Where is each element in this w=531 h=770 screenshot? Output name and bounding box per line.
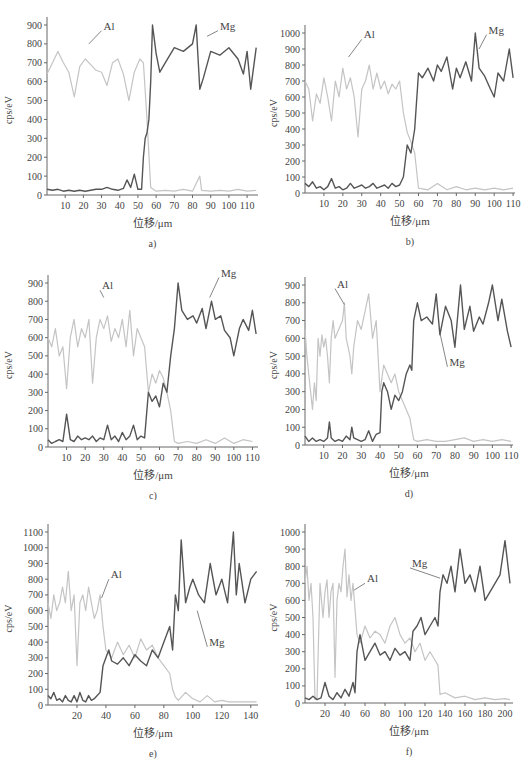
x-tick-label: 70	[169, 200, 179, 211]
y-axis-label: cps/eV	[268, 350, 279, 379]
y-tick-label: 200	[285, 156, 300, 167]
y-tick-label: 600	[285, 92, 300, 103]
x-axis-label: 位移/μm	[133, 726, 173, 739]
annotation-mg: Mg	[220, 20, 236, 32]
x-tick-label: 100	[485, 450, 500, 461]
x-tick-label: 80	[451, 198, 461, 209]
y-tick-label: 600	[285, 333, 300, 344]
y-tick-label: 0	[295, 698, 300, 709]
y-tick-label: 100	[28, 423, 43, 434]
x-tick-label: 50	[133, 200, 143, 211]
y-tick-label: 500	[27, 95, 42, 106]
y-tick-label: 1000	[23, 542, 43, 553]
x-tick-label: 10	[319, 198, 329, 209]
x-tick-label: 60	[155, 452, 165, 463]
chart-a: 0100200300400500600700800900102030405060…	[0, 0, 265, 250]
y-tick-label: 400	[27, 114, 42, 125]
x-tick-label: 100	[487, 198, 502, 209]
y-tick-label: 300	[285, 386, 300, 397]
chart-panel-d: 0100200300400500600700800900102030405060…	[265, 250, 531, 500]
y-tick-label: 200	[28, 668, 43, 679]
x-tick-label: 140	[438, 708, 453, 719]
y-tick-label: 900	[28, 278, 43, 289]
y-tick-label: 100	[285, 680, 300, 691]
y-tick-label: 800	[285, 60, 300, 71]
x-tick-label: 30	[97, 200, 107, 211]
y-tick-label: 200	[285, 663, 300, 674]
x-tick-label: 100	[185, 710, 200, 721]
y-tick-label: 300	[28, 652, 43, 663]
annotation-mg: Mg	[489, 24, 505, 36]
y-tick-label: 700	[27, 57, 42, 68]
x-tick-label: 20	[80, 452, 90, 463]
y-tick-label: 700	[28, 589, 43, 600]
y-tick-label: 700	[285, 315, 300, 326]
x-tick-label: 30	[99, 452, 109, 463]
chart-e: 0100200300400500600700800900100011002040…	[0, 500, 265, 770]
y-tick-label: 100	[27, 171, 42, 182]
x-tick-label: 20	[337, 450, 347, 461]
x-tick-label: 110	[245, 452, 260, 463]
x-tick-label: 160	[458, 708, 473, 719]
chart-panel-f: 0100200300400500600700800900100020406080…	[265, 500, 531, 770]
x-tick-label: 60	[151, 200, 161, 211]
x-tick-label: 80	[192, 452, 202, 463]
y-tick-label: 800	[285, 297, 300, 308]
chart-panel-b: 0100200300400500600700800900100010203040…	[265, 0, 531, 250]
x-axis-label: 位移/μm	[389, 466, 429, 479]
x-axis-label: 位移/μm	[133, 216, 173, 229]
y-tick-label: 0	[38, 442, 43, 453]
annotation-al: Al	[102, 279, 113, 291]
annotation-mg: Mg	[412, 557, 428, 569]
x-tick-label: 90	[210, 452, 220, 463]
y-axis-label: cps/eV	[268, 98, 279, 127]
y-tick-label: 900	[27, 20, 42, 31]
annotation-al: Al	[337, 278, 348, 290]
annotation-al: Al	[104, 20, 115, 32]
annotation-al: Al	[111, 568, 122, 580]
y-tick-label: 100	[285, 422, 300, 433]
series-mg	[305, 33, 513, 190]
x-tick-label: 90	[470, 198, 480, 209]
y-tick-label: 600	[285, 595, 300, 606]
x-tick-label: 20	[78, 200, 88, 211]
annotation-mg: Mg	[209, 636, 225, 648]
y-tick-label: 1000	[280, 28, 300, 39]
panel-caption: f)	[406, 746, 413, 758]
chart-c: 0100200300400500600700800900102030405060…	[0, 250, 265, 500]
y-tick-label: 200	[28, 405, 43, 416]
x-tick-label: 70	[432, 198, 442, 209]
x-tick-label: 10	[319, 450, 329, 461]
series-mg	[305, 541, 510, 700]
y-tick-label: 500	[285, 108, 300, 119]
y-tick-label: 800	[28, 296, 43, 307]
y-tick-label: 400	[285, 368, 300, 379]
y-tick-label: 200	[285, 404, 300, 415]
x-axis-label: 位移/μm	[133, 468, 173, 481]
x-tick-label: 40	[101, 710, 111, 721]
chart-panel-e: 0100200300400500600700800900100011002040…	[0, 500, 265, 770]
y-tick-label: 0	[295, 188, 300, 199]
y-axis-label: cps/eV	[3, 604, 14, 633]
y-tick-label: 100	[28, 684, 43, 695]
y-tick-label: 800	[285, 561, 300, 572]
x-tick-label: 70	[173, 452, 183, 463]
y-tick-label: 900	[285, 280, 300, 291]
y-tick-label: 500	[28, 621, 43, 632]
x-tick-label: 60	[414, 198, 424, 209]
x-tick-label: 20	[338, 198, 348, 209]
y-tick-label: 300	[285, 646, 300, 657]
y-tick-label: 300	[27, 133, 42, 144]
x-tick-label: 100	[398, 708, 413, 719]
y-tick-label: 500	[28, 350, 43, 361]
chart-b: 0100200300400500600700800900100010203040…	[265, 0, 531, 250]
x-tick-label: 10	[60, 200, 70, 211]
y-tick-label: 400	[285, 629, 300, 640]
x-tick-label: 200	[498, 708, 513, 719]
x-tick-label: 50	[394, 450, 404, 461]
annotation-al: Al	[364, 28, 375, 40]
x-tick-label: 80	[380, 708, 390, 719]
y-tick-label: 700	[285, 76, 300, 87]
x-tick-label: 80	[450, 450, 460, 461]
y-tick-label: 900	[285, 44, 300, 55]
